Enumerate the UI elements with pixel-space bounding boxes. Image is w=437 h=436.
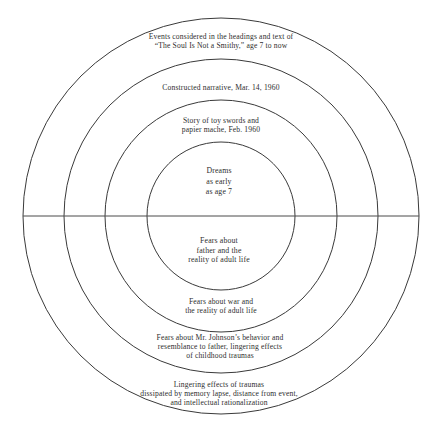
concentric-circles-diagram: Events considered in the headings and te… (0, 0, 437, 436)
rings-svg (0, 0, 437, 436)
